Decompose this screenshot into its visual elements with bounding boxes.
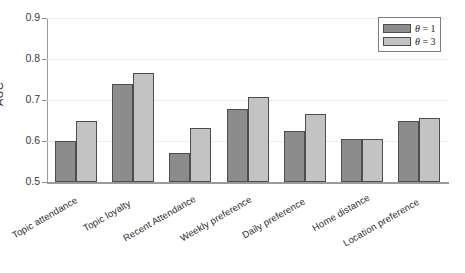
chart-legend[interactable]: θ = 1 θ = 3 (378, 17, 441, 52)
legend-label-series-1: θ = 1 (415, 23, 436, 34)
x-axis-label: Topic attendance (10, 194, 79, 240)
y-tick-label: 0.5 (2, 176, 40, 187)
legend-label-series-2: θ = 3 (415, 36, 436, 47)
y-tick-label: 0.7 (2, 94, 40, 105)
legend-item-theta-1[interactable]: θ = 1 (383, 22, 436, 34)
bar-theta-1[interactable] (341, 139, 362, 182)
legend-item-theta-3[interactable]: θ = 3 (383, 35, 436, 47)
x-axis-line (47, 182, 449, 184)
bar-theta-1[interactable] (55, 141, 76, 182)
bar-theta-3[interactable] (362, 139, 383, 182)
bar-theta-1[interactable] (112, 84, 133, 182)
bar-theta-1[interactable] (227, 109, 248, 182)
y-tick-label: 0.9 (2, 12, 40, 23)
y-tick-label: 0.6 (2, 135, 40, 146)
bar-theta-3[interactable] (76, 121, 97, 183)
legend-swatch-series-2 (383, 37, 411, 46)
bar-theta-3[interactable] (305, 114, 326, 182)
bar-theta-1[interactable] (398, 121, 419, 183)
y-tick-label: 0.8 (2, 53, 40, 64)
bar-theta-3[interactable] (133, 73, 154, 182)
x-axis-label: Topic loyalty (81, 197, 132, 233)
gridline (47, 59, 448, 60)
bar-theta-3[interactable] (190, 128, 211, 182)
chart-figure: AUC 0.50.60.70.80.9 Topic attendanceTopi… (0, 0, 465, 273)
bar-theta-1[interactable] (284, 131, 305, 182)
legend-swatch-series-1 (383, 24, 411, 33)
bar-theta-3[interactable] (248, 97, 269, 182)
bar-theta-1[interactable] (169, 153, 190, 182)
bar-theta-3[interactable] (419, 118, 440, 182)
